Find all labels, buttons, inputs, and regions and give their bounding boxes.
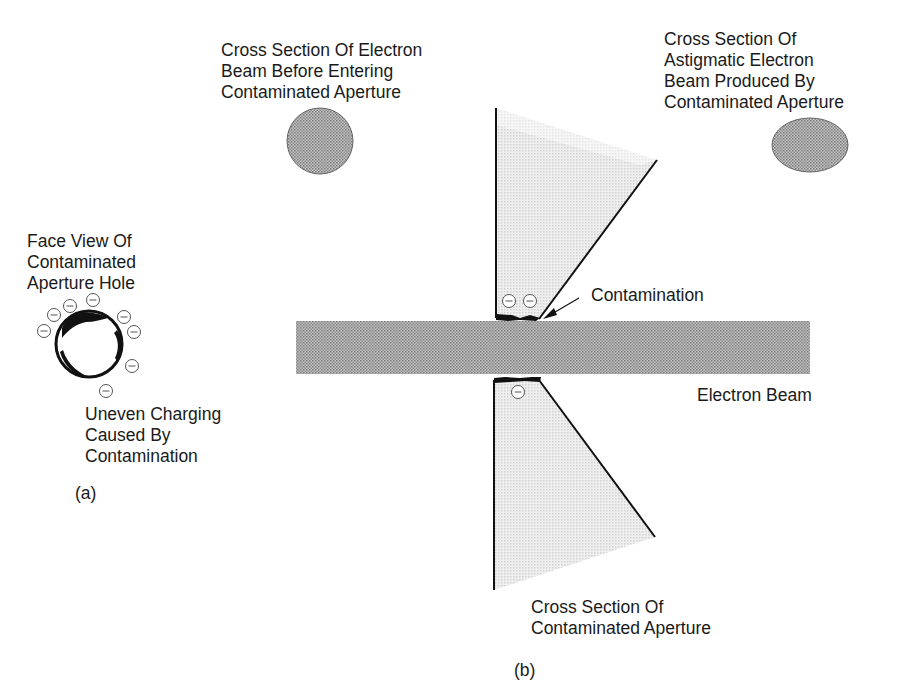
charge-icon (503, 295, 516, 308)
panel-a-label: (a) (75, 483, 96, 504)
charge-icon (38, 325, 51, 338)
charge-icon (524, 295, 537, 308)
beam-before-line: Beam Before Entering (221, 61, 422, 82)
charge-icon (64, 300, 77, 313)
electron-beam-bar (296, 321, 810, 374)
astigmatic-line: Contaminated Aperture (664, 92, 844, 113)
astigmatic-line: Beam Produced By (664, 71, 844, 92)
beam-before-label: Cross Section Of Electron Beam Before En… (221, 40, 422, 103)
aperture-face-view (56, 311, 122, 378)
face-view-title-line: Face View Of (27, 231, 136, 252)
charge-icon (512, 386, 525, 399)
panel-b-label: (b) (514, 660, 535, 681)
aperture-label-line: Cross Section Of (531, 597, 711, 618)
charge-icon (118, 311, 131, 324)
beam-before-line: Contaminated Aperture (221, 82, 422, 103)
caption-line: Caused By (85, 425, 221, 446)
beam-before-line: Cross Section Of Electron (221, 40, 422, 61)
astigmatic-beam-label: Cross Section Of Astigmatic Electron Bea… (664, 29, 844, 113)
charge-icon (128, 326, 141, 339)
astigmatic-line: Astigmatic Electron (664, 50, 844, 71)
contamination-label: Contamination (591, 285, 704, 306)
face-view-title: Face View Of Contaminated Aperture Hole (27, 231, 136, 294)
beam-cross-section-astigmatic (772, 118, 848, 172)
astigmatic-line: Cross Section Of (664, 29, 844, 50)
face-view-title-line: Contaminated (27, 252, 136, 273)
beam-cross-section-round (287, 108, 353, 174)
aperture-cross-section-label: Cross Section Of Contaminated Aperture (531, 597, 711, 639)
charge-icon (87, 294, 100, 307)
charge-icon (48, 309, 61, 322)
charge-icon (126, 360, 139, 373)
caption-line: Contamination (85, 446, 221, 467)
aperture-label-line: Contaminated Aperture (531, 618, 711, 639)
lower-charges (512, 386, 525, 399)
aperture-lower-wedge (494, 377, 655, 590)
caption-line: Uneven Charging (85, 404, 221, 425)
face-view-title-line: Aperture Hole (27, 273, 136, 294)
charge-icon (100, 385, 113, 398)
uneven-charging-caption: Uneven Charging Caused By Contamination (85, 404, 221, 467)
electron-beam-label: Electron Beam (697, 385, 812, 406)
